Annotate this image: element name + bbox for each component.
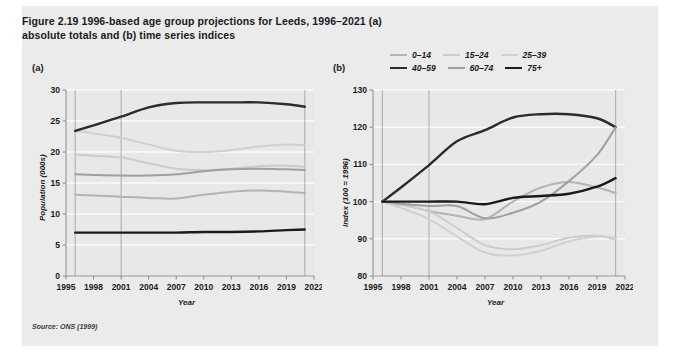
legend-label: 40–59 — [412, 63, 436, 73]
x-tick-label: 2004 — [448, 282, 467, 292]
x-tick-label: 2007 — [476, 282, 495, 292]
x-tick-label: 2007 — [167, 282, 186, 292]
legend-item-15-24: 15–24 — [443, 50, 489, 60]
x-tick-label: 2022 — [305, 282, 322, 292]
legend-label: 60–74 — [470, 63, 494, 73]
y-tick-label: 90 — [358, 234, 368, 244]
plot-area-a: 0510152025301995199820012004200720102013… — [32, 80, 322, 320]
x-tick-label: 1995 — [364, 282, 383, 292]
legend-label: 25–39 — [523, 50, 547, 60]
x-tick-label: 2019 — [588, 282, 607, 292]
y-tick-label: 10 — [51, 209, 61, 219]
legend-swatch-icon — [501, 54, 518, 56]
y-axis-title: Index (100 = 1996) — [341, 158, 350, 227]
x-tick-label: 1998 — [84, 282, 103, 292]
y-tick-label: 130 — [353, 85, 367, 95]
legend-row: 40–5960–7475+ — [390, 61, 640, 74]
legend-label: 75+ — [527, 63, 541, 73]
y-tick-label: 30 — [51, 85, 61, 95]
y-tick-label: 120 — [353, 122, 367, 132]
legend-swatch-icon — [390, 54, 407, 56]
x-tick-label: 2019 — [277, 282, 296, 292]
figure-title: Figure 2.19 1996-based age group project… — [22, 14, 422, 42]
x-tick-label: 2016 — [249, 282, 268, 292]
legend-item-40-59: 40–59 — [390, 63, 436, 73]
legend-swatch-icon — [448, 67, 465, 69]
legend-swatch-icon — [443, 54, 460, 56]
legend-swatch-icon — [390, 67, 407, 69]
legend: 0–1415–2425–3940–5960–7475+ — [390, 48, 640, 74]
x-tick-label: 2013 — [222, 282, 241, 292]
legend-item-75+: 75+ — [505, 63, 541, 73]
y-tick-label: 15 — [51, 178, 61, 188]
y-axis-title: Population (000s) — [38, 154, 47, 221]
x-tick-label: 2013 — [532, 282, 551, 292]
x-tick-label: 2022 — [616, 282, 633, 292]
legend-label: 15–24 — [465, 50, 489, 60]
y-tick-label: 0 — [55, 271, 60, 281]
x-axis-title: Year — [178, 298, 195, 307]
x-tick-label: 2010 — [504, 282, 523, 292]
y-tick-label: 25 — [51, 116, 61, 126]
legend-item-25-39: 25–39 — [501, 50, 547, 60]
chart-a-absolute-totals: 0510152025301995199820012004200720102013… — [32, 80, 322, 320]
plot-area-b: 8090100110120130199519982001200420072010… — [333, 80, 633, 320]
y-tick-label: 80 — [358, 271, 368, 281]
x-tick-label: 2001 — [112, 282, 131, 292]
legend-label: 0–14 — [412, 50, 431, 60]
panel-b-letter: (b) — [333, 62, 345, 73]
y-tick-label: 100 — [353, 197, 367, 207]
legend-swatch-icon — [505, 67, 522, 69]
x-axis-title: Year — [487, 298, 504, 307]
y-tick-label: 20 — [51, 147, 61, 157]
x-tick-label: 1995 — [57, 282, 76, 292]
legend-row: 0–1415–2425–39 — [390, 48, 640, 61]
legend-item-60-74: 60–74 — [448, 63, 494, 73]
panel-a-letter: (a) — [32, 62, 44, 73]
x-tick-label: 1998 — [392, 282, 411, 292]
x-tick-label: 2016 — [560, 282, 579, 292]
x-tick-label: 2010 — [194, 282, 213, 292]
chart-b-time-series-indices: 8090100110120130199519982001200420072010… — [333, 80, 633, 320]
y-tick-label: 5 — [55, 240, 60, 250]
legend-item-0-14: 0–14 — [390, 50, 431, 60]
source-note: Source: ONS (1999) — [32, 323, 97, 330]
y-tick-label: 110 — [353, 159, 367, 169]
x-tick-label: 2004 — [139, 282, 158, 292]
x-tick-label: 2001 — [420, 282, 439, 292]
